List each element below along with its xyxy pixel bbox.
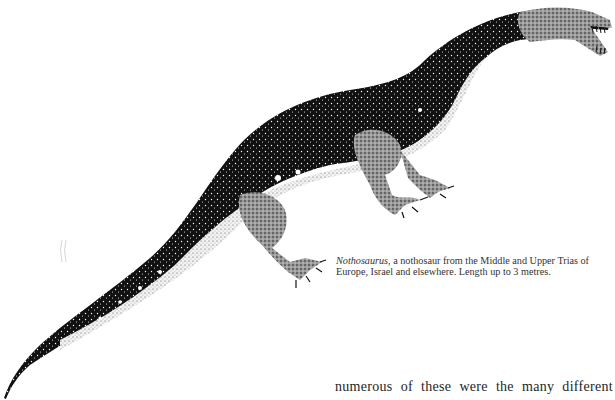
nothosaurus-illustration bbox=[0, 0, 615, 400]
head bbox=[518, 8, 612, 57]
caption-genus: Nothosaurus bbox=[336, 255, 388, 266]
pencil-mark bbox=[61, 240, 67, 262]
figure-caption: Nothosaurus, a nothosaur from the Middle… bbox=[336, 255, 596, 277]
body-text-line: numerous of these were the many differen… bbox=[335, 378, 613, 396]
hind-leg bbox=[239, 192, 322, 280]
front-foot-far bbox=[400, 150, 450, 198]
body-silhouette bbox=[4, 9, 610, 399]
